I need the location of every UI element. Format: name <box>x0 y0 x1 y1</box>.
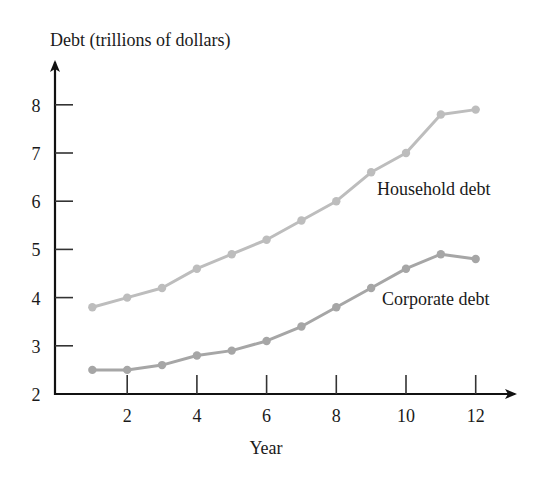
data-point <box>228 250 236 258</box>
y-tick-label: 6 <box>32 192 41 212</box>
data-point <box>367 284 375 292</box>
household-debt-series <box>88 105 480 311</box>
y-tick-label: 5 <box>32 240 41 260</box>
data-point <box>402 149 410 157</box>
data-point <box>472 105 480 113</box>
x-ticks: 24681012 <box>123 375 485 426</box>
y-tick-label: 7 <box>32 144 41 164</box>
data-point <box>332 197 340 205</box>
data-point <box>297 322 305 330</box>
x-tick-label: 8 <box>332 406 341 426</box>
y-tick-label: 8 <box>32 96 41 116</box>
x-tick-label: 12 <box>467 406 485 426</box>
data-point <box>297 216 305 224</box>
y-axis-title: Debt (trillions of dollars) <box>50 30 230 51</box>
y-tick-label: 3 <box>32 337 41 357</box>
data-point <box>123 366 131 374</box>
x-tick-label: 10 <box>397 406 415 426</box>
data-point <box>88 303 96 311</box>
data-point <box>193 264 201 272</box>
data-point <box>402 264 410 272</box>
data-point <box>332 303 340 311</box>
chart-canvas: Debt (trillions of dollars) Year 2345678… <box>0 0 542 483</box>
data-point <box>367 168 375 176</box>
data-point <box>262 337 270 345</box>
data-point <box>193 351 201 359</box>
data-point <box>228 346 236 354</box>
line-chart: Debt (trillions of dollars) Year 2345678… <box>0 0 542 483</box>
data-point <box>437 110 445 118</box>
data-point <box>472 255 480 263</box>
x-tick-label: 2 <box>123 406 132 426</box>
series-line <box>92 110 475 308</box>
x-tick-label: 6 <box>262 406 271 426</box>
data-point <box>88 366 96 374</box>
y-ticks: 2345678 <box>32 96 74 405</box>
series-line <box>92 254 475 370</box>
data-point <box>437 250 445 258</box>
data-point <box>123 293 131 301</box>
series-layer <box>88 105 480 374</box>
data-point <box>158 284 166 292</box>
y-tick-label: 4 <box>32 289 41 309</box>
corporate-debt-series <box>88 250 480 374</box>
household-debt-label: Household debt <box>377 179 490 199</box>
data-point <box>158 361 166 369</box>
corporate-debt-label: Corporate debt <box>382 289 489 309</box>
data-point <box>262 236 270 244</box>
x-tick-label: 4 <box>192 406 201 426</box>
y-tick-label: 2 <box>32 385 41 405</box>
x-axis-title: Year <box>249 438 282 458</box>
